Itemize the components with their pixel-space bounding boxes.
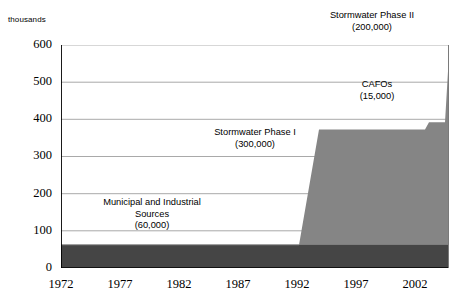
stacked-area-chart: thousands 600 500 400 300 200 100 0 1972… [0, 0, 465, 308]
y-tick-label-500: 500 [8, 74, 52, 89]
x-tick-label-1992: 1992 [274, 277, 320, 292]
x-tick-label-1997: 1997 [333, 277, 379, 292]
y-tick-label-200: 200 [8, 186, 52, 201]
area-series-base [61, 245, 449, 268]
annotation-municipal-industrial: Municipal and Industrial Sources (60,000… [62, 197, 242, 232]
x-tick-label-2002: 2002 [392, 277, 438, 292]
annotation-cafos: CAFOs (15,000) [322, 79, 432, 102]
y-tick-label-100: 100 [8, 223, 52, 238]
annotation-stormwater-phase-2: Stormwater Phase II (200,000) [292, 10, 452, 33]
y-tick-label-0: 0 [8, 260, 52, 275]
x-tick-label-1982: 1982 [156, 277, 202, 292]
y-axis-unit-label: thousands [8, 15, 46, 24]
x-tick-label-1977: 1977 [97, 277, 143, 292]
y-tick-label-600: 600 [8, 37, 52, 52]
x-tick-label-1972: 1972 [38, 277, 84, 292]
x-tick-label-1987: 1987 [215, 277, 261, 292]
y-tick-label-400: 400 [8, 111, 52, 126]
y-tick-label-300: 300 [8, 148, 52, 163]
annotation-stormwater-phase-1: Stormwater Phase I (300,000) [175, 127, 335, 150]
